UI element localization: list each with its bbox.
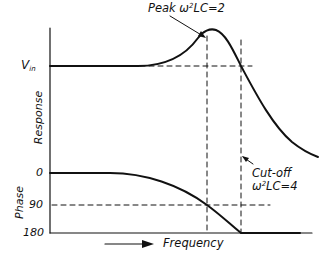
peak-label-suffix: LC=2 (193, 1, 224, 15)
frequency-arrowhead-icon (142, 240, 154, 248)
peak-label: Peak ω2LC=2 (148, 3, 225, 15)
response-curve (50, 29, 318, 157)
frequency-response-diagram (0, 0, 332, 258)
cutoff-label-line2: ω2LC=4 (252, 181, 298, 193)
peak-label-prefix: Peak ω (148, 1, 189, 15)
cutoff-label-suffix: LC=4 (266, 179, 297, 193)
frequency-axis-label: Frequency (163, 238, 224, 250)
vin-label-sub: in (29, 65, 35, 73)
phase-tick-180: 180 (23, 227, 44, 238)
response-axis-label: Response (33, 88, 44, 148)
phase-tick-0: 0 (36, 167, 43, 178)
phase-axis-label: Phase (14, 178, 25, 228)
cutoff-arrowhead-icon (242, 156, 249, 162)
cutoff-label-line1: Cut-off (252, 168, 291, 180)
cutoff-label-prefix: ω (252, 179, 262, 193)
peak-arrow-line (170, 16, 203, 36)
vin-label-main: V (21, 58, 29, 72)
phase-tick-90: 90 (29, 199, 43, 210)
vin-label: Vin (21, 59, 36, 73)
